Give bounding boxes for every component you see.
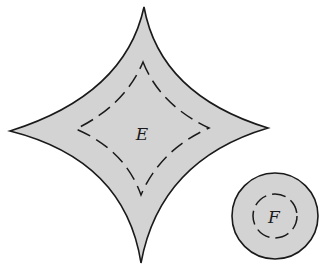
label-f: F (267, 207, 281, 227)
diagram-canvas: E F (0, 0, 323, 273)
label-e: E (135, 124, 149, 144)
